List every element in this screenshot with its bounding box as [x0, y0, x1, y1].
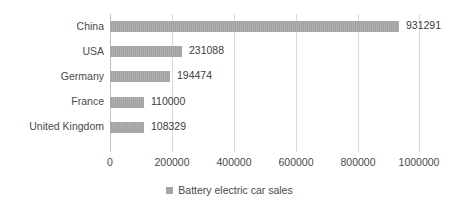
bar-value-france: 110000	[151, 94, 185, 108]
plot-area: 931291 231088 194474 110000 108329	[110, 14, 420, 152]
bar-chart: China USA Germany France United Kingdom …	[0, 0, 459, 209]
bar-row: 931291	[110, 14, 420, 39]
bar-value-china: 931291	[406, 18, 441, 32]
bar-row: 231088	[110, 39, 420, 64]
x-tick-label-1000000: 1000000	[399, 155, 440, 169]
category-label-usa: USA	[2, 44, 104, 58]
bar-france[interactable]	[110, 97, 144, 108]
legend-swatch-icon	[166, 187, 173, 194]
bar-usa[interactable]	[110, 46, 182, 57]
category-label-united-kingdom: United Kingdom	[2, 119, 104, 133]
bar-row: 108329	[110, 115, 420, 140]
value-axis: 0 200000 400000 600000 800000 1000000	[110, 155, 420, 171]
bar-value-germany: 194474	[177, 68, 212, 82]
bar-row: 194474	[110, 64, 420, 89]
category-label-china: China	[2, 19, 104, 33]
x-tick-label-600000: 600000	[278, 155, 313, 169]
x-tick-label-0: 0	[107, 155, 113, 169]
legend-label: Battery electric car sales	[178, 183, 292, 197]
bar-value-usa: 231088	[189, 43, 224, 57]
bar-united-kingdom[interactable]	[110, 122, 144, 133]
x-tick-label-800000: 800000	[340, 155, 375, 169]
bar-row: 110000	[110, 90, 420, 115]
x-tick-label-200000: 200000	[154, 155, 189, 169]
chart-legend: Battery electric car sales	[0, 183, 459, 197]
category-label-france: France	[2, 94, 104, 108]
bar-value-united-kingdom: 108329	[151, 119, 186, 133]
category-label-germany: Germany	[2, 69, 104, 83]
category-axis: China USA Germany France United Kingdom	[0, 14, 104, 152]
bar-germany[interactable]	[110, 71, 170, 82]
x-tick-label-400000: 400000	[216, 155, 251, 169]
bar-china[interactable]	[110, 21, 399, 32]
